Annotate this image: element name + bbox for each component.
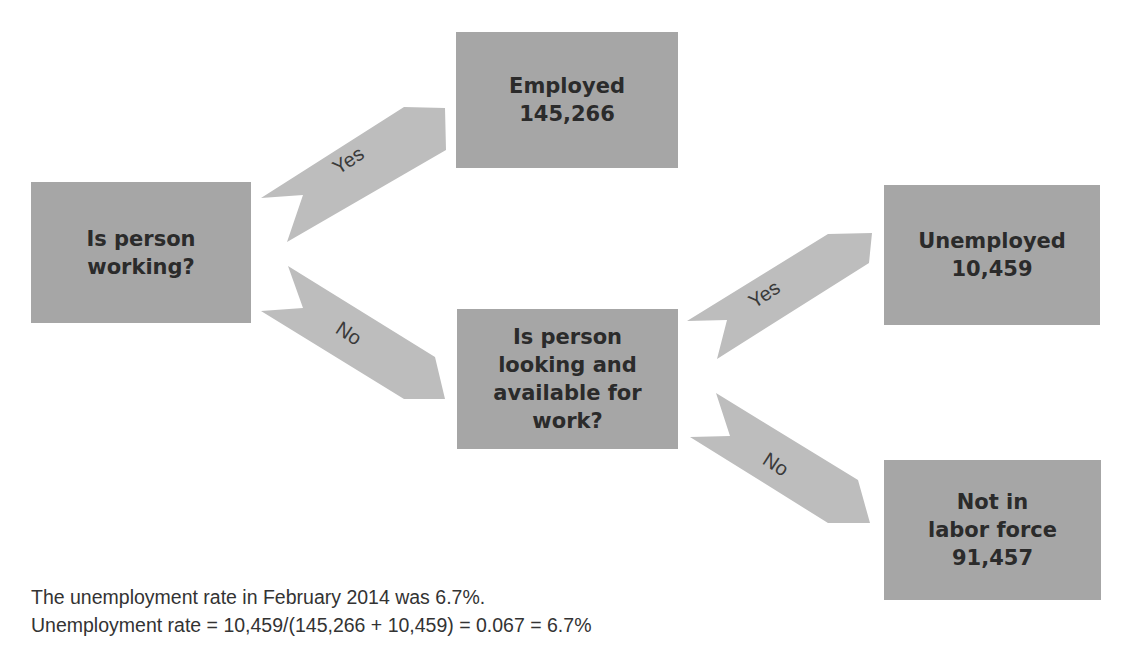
node-label: Is person working? xyxy=(86,225,195,281)
caption-line-1: The unemployment rate in February 2014 w… xyxy=(31,583,591,611)
node-looking-and-available: Is person looking and available for work… xyxy=(457,309,678,449)
arrow-looking-to-unemployed: Yes xyxy=(687,233,872,359)
node-label: Not in labor force 91,457 xyxy=(928,488,1057,572)
arrow-start-to-looking: No xyxy=(261,266,445,399)
node-label: Is person looking and available for work… xyxy=(493,323,641,435)
node-label: Employed 145,266 xyxy=(509,72,625,128)
node-unemployed: Unemployed 10,459 xyxy=(884,185,1100,325)
node-employed: Employed 145,266 xyxy=(456,32,678,168)
node-not-in-labor-force: Not in labor force 91,457 xyxy=(884,460,1101,600)
arrow-start-to-employed: Yes xyxy=(260,107,446,242)
caption: The unemployment rate in February 2014 w… xyxy=(31,583,591,639)
arrow-looking-to-not-in-labor-force: No xyxy=(690,393,870,523)
caption-line-2: Unemployment rate = 10,459/(145,266 + 10… xyxy=(31,611,591,639)
node-is-person-working: Is person working? xyxy=(31,182,251,323)
node-label: Unemployed 10,459 xyxy=(918,227,1066,283)
